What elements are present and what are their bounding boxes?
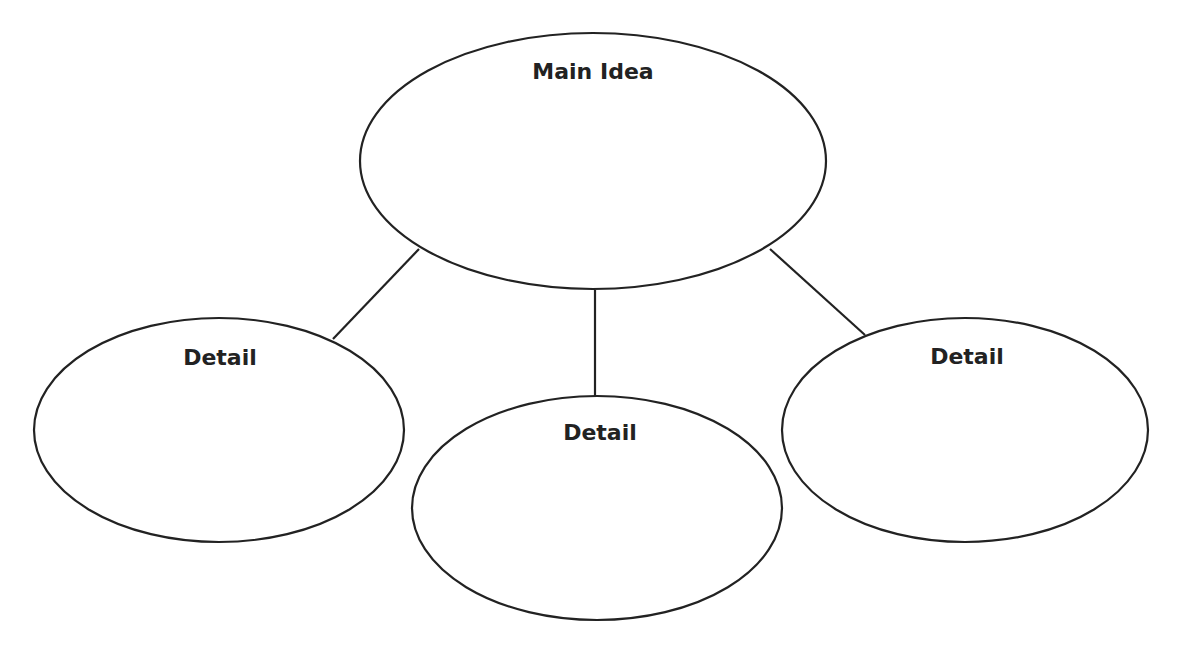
detail-label-right: Detail xyxy=(930,344,1004,369)
main-idea-label: Main Idea xyxy=(532,59,653,84)
connector-main-to-right-detail xyxy=(770,249,865,335)
connector-main-to-left-detail xyxy=(333,249,419,339)
detail-node-left: Detail xyxy=(34,318,404,542)
detail-label-left: Detail xyxy=(183,345,257,370)
main-idea-diagram: Main Idea Detail Detail Detail xyxy=(0,0,1182,658)
detail-node-right: Detail xyxy=(782,318,1148,542)
main-idea-node: Main Idea xyxy=(360,33,826,289)
detail-node-center: Detail xyxy=(412,396,782,620)
detail-label-center: Detail xyxy=(563,420,637,445)
